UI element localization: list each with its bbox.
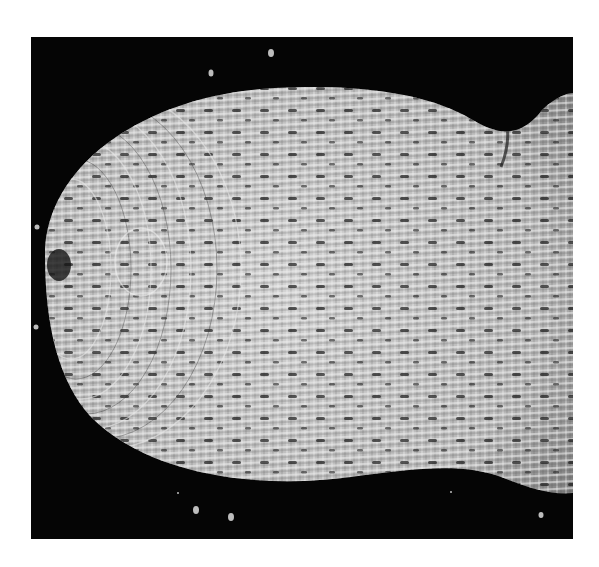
woven-structure-illustration [31,37,573,539]
photograph [31,37,573,539]
